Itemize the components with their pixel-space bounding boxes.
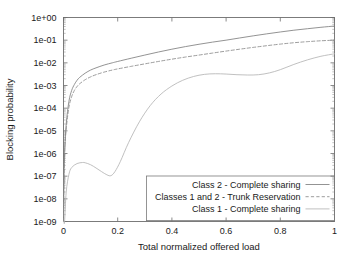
y-tick-label: 1e-06: [33, 149, 56, 159]
legend-label-1: Class 2 - Complete sharing: [192, 180, 301, 190]
x-axis-tick-labels: 00.20.40.60.81: [61, 226, 337, 236]
x-axis-tick-marks: [64, 18, 335, 222]
y-axis-tick-marks: [64, 18, 335, 222]
x-tick-label: 1: [332, 226, 337, 236]
plot-frame: [64, 18, 335, 222]
y-tick-label: 1e-05: [33, 126, 56, 136]
y-axis-title: Blocking probability: [4, 78, 15, 160]
chart-container: 1e+001e-011e-021e-031e-041e-051e-061e-07…: [0, 0, 350, 264]
y-tick-label: 1e+00: [31, 13, 56, 23]
blocking-probability-chart: 1e+001e-011e-021e-031e-041e-051e-061e-07…: [0, 0, 350, 264]
x-tick-label: 0.2: [111, 226, 124, 236]
y-tick-label: 1e-02: [33, 58, 56, 68]
y-tick-label: 1e-03: [33, 81, 56, 91]
y-tick-label: 1e-04: [33, 103, 56, 113]
x-tick-label: 0.8: [274, 226, 287, 236]
legend-label-3: Class 1 - Complete sharing: [192, 204, 301, 214]
x-tick-label: 0: [61, 226, 66, 236]
chart-legend: Class 2 - Complete sharingClasses 1 and …: [147, 176, 335, 221]
y-tick-label: 1e-07: [33, 171, 56, 181]
y-tick-label: 1e-01: [33, 35, 56, 45]
x-tick-label: 0.4: [166, 226, 179, 236]
y-axis-tick-labels: 1e+001e-011e-021e-031e-041e-051e-061e-07…: [31, 13, 56, 227]
x-tick-label: 0.6: [220, 226, 233, 236]
y-tick-label: 1e-08: [33, 194, 56, 204]
legend-label-2: Classes 1 and 2 - Trunk Reservation: [155, 192, 301, 202]
y-tick-label: 1e-09: [33, 217, 56, 227]
x-axis-title: Total normalized offered load: [138, 241, 260, 252]
